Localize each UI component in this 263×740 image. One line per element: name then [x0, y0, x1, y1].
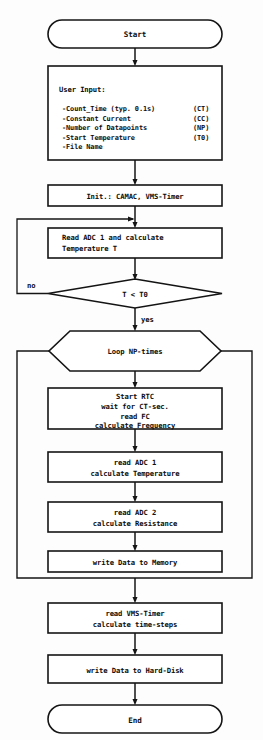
read-adc1-line1: read ADC 1	[114, 458, 156, 467]
read-adc1-line2: calculate Temperature	[91, 469, 181, 478]
node-end: End	[48, 705, 222, 733]
start-rtc-line1: Start RTC	[116, 392, 154, 401]
node-start: Start	[48, 20, 222, 48]
read-timer-line1: read VMS-Timer	[105, 609, 165, 618]
read-timer-line2: calculate time-steps	[93, 620, 178, 629]
node-read-adc-temperature: Read ADC 1 and calculate Temperature T	[48, 228, 222, 258]
flowchart-canvas: Start User Input: -Count_Time (typ. 0.1s…	[0, 0, 263, 740]
node-read-adc1: read ADC 1 calculate Temperature	[48, 452, 222, 482]
node-write-memory: write Data to Memory	[48, 551, 222, 572]
node-write-disk: write Data to Hard-Disk	[48, 655, 222, 683]
flowchart-diagram: Start User Input: -Count_Time (typ. 0.1s…	[0, 0, 263, 740]
node-read-timer: read VMS-Timer calculate time-steps	[48, 603, 222, 633]
read-adc-temp-line2: Temperature T	[62, 244, 118, 253]
node-read-adc2: read ADC 2 calculate Resistance	[48, 502, 222, 532]
init-label: Init.: CAMAC, VMS-Timer	[86, 192, 184, 201]
node-user-input: User Input: -Count_Time (typ. 0.1s) (CT)…	[48, 66, 222, 160]
start-rtc-line3: read FC	[120, 412, 150, 421]
user-input-item-1-text: -Constant Current	[62, 115, 131, 123]
user-input-item-0-code: (CT)	[193, 105, 209, 113]
read-adc2-line2: calculate Resistance	[93, 519, 178, 528]
node-init: Init.: CAMAC, VMS-Timer	[48, 185, 222, 206]
write-disk-label: write Data to Hard-Disk	[86, 666, 184, 675]
user-input-item-3-text: -Start Temperature	[62, 134, 135, 142]
user-input-item-1-code: (CC)	[193, 115, 209, 123]
node-start-rtc: Start RTC wait for CT-sec. read FC calcu…	[48, 388, 222, 430]
user-input-item-2-text: -Number of Datapoints	[62, 124, 147, 132]
user-input-heading: User Input:	[59, 85, 106, 94]
connector-no-loopback-arrowhead	[128, 216, 135, 221]
write-memory-label: write Data to Memory	[93, 558, 178, 567]
user-input-item-4-text: -File Name	[62, 143, 103, 151]
read-adc1-shape	[48, 452, 222, 482]
node-decision-temperature: T < T0	[48, 279, 222, 308]
decision-no-label: no	[27, 281, 35, 290]
node-loop-header: Loop NP-times	[49, 331, 221, 371]
decision-yes-label: yes	[141, 315, 154, 324]
start-label: Start	[124, 30, 146, 39]
read-adc2-shape	[48, 502, 222, 532]
read-adc-temp-line1: Read ADC 1 and calculate	[62, 233, 164, 242]
read-timer-shape	[48, 603, 222, 633]
start-rtc-line2: wait for CT-sec.	[101, 402, 169, 411]
end-label: End	[128, 716, 142, 725]
user-input-item-2-code: (NP)	[193, 124, 209, 132]
loop-label: Loop NP-times	[108, 347, 163, 356]
user-input-item-0-text: -Count_Time (typ. 0.1s)	[62, 105, 155, 113]
user-input-item-3-code: (T0)	[193, 134, 209, 142]
read-adc2-line1: read ADC 2	[114, 508, 156, 517]
decision-label: T < T0	[122, 290, 147, 299]
start-rtc-line4: calculate Frequency	[95, 421, 176, 430]
